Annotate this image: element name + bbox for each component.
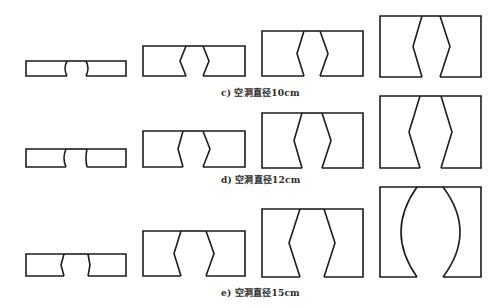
right-cavity-wall	[86, 61, 88, 76]
specimen-row-d-1	[26, 149, 126, 167]
right-cavity-wall	[86, 149, 87, 167]
left-cavity-wall	[61, 254, 64, 276]
cavity-deformation-figure	[0, 0, 500, 308]
right-block-outline	[206, 231, 245, 276]
right-block-outline	[324, 209, 363, 277]
right-block-outline	[440, 16, 481, 77]
left-block-outline	[26, 254, 64, 276]
right-block-outline	[441, 96, 481, 168]
right-cavity-wall	[88, 254, 90, 276]
right-cavity-wall	[443, 187, 460, 277]
specimen-row-e-4	[380, 187, 481, 277]
specimen-row-c-4	[380, 16, 481, 77]
right-block-outline	[88, 254, 126, 276]
specimen-row-c-3	[262, 31, 363, 76]
left-cavity-wall	[174, 231, 181, 276]
left-cavity-wall	[65, 61, 67, 76]
left-block-outline	[262, 113, 302, 168]
specimen-row-c-1	[26, 61, 126, 76]
right-block-outline	[320, 31, 363, 76]
left-cavity-wall	[401, 187, 417, 277]
left-cavity-wall	[294, 113, 302, 168]
specimen-row-e-3	[262, 209, 363, 277]
right-cavity-wall	[324, 209, 335, 277]
specimen-row-e-1	[26, 254, 126, 276]
left-block-outline	[143, 131, 183, 167]
specimen-row-c-2	[143, 46, 245, 76]
right-cavity-wall	[203, 131, 210, 167]
left-block-outline	[380, 187, 417, 277]
left-cavity-wall	[180, 46, 186, 76]
left-block-outline	[26, 61, 67, 76]
left-cavity-wall	[289, 209, 300, 277]
caption-row-e: e) 空洞直径15cm	[221, 286, 300, 299]
right-block-outline	[86, 61, 126, 76]
specimen-row-e-2	[143, 231, 245, 276]
right-cavity-wall	[440, 16, 450, 77]
right-cavity-wall	[203, 46, 209, 76]
caption-row-c: c) 空洞直径10cm	[221, 86, 300, 99]
specimen-row-d-4	[380, 96, 481, 168]
right-block-outline	[322, 113, 363, 168]
left-cavity-wall	[409, 96, 420, 168]
left-cavity-wall	[297, 31, 304, 76]
left-cavity-wall	[413, 16, 422, 77]
left-block-outline	[26, 149, 66, 167]
specimen-row-d-2	[143, 131, 245, 167]
right-block-outline	[443, 187, 481, 277]
right-cavity-wall	[441, 96, 452, 168]
left-block-outline	[262, 209, 300, 277]
left-block-outline	[380, 96, 420, 168]
right-block-outline	[87, 149, 126, 167]
right-cavity-wall	[320, 31, 328, 76]
specimen-row-d-3	[262, 113, 363, 168]
caption-row-d: d) 空洞直径12cm	[221, 173, 300, 186]
right-cavity-wall	[206, 231, 214, 276]
left-cavity-wall	[178, 131, 183, 167]
left-cavity-wall	[64, 149, 66, 167]
right-cavity-wall	[322, 113, 331, 168]
left-block-outline	[380, 16, 422, 77]
left-block-outline	[143, 231, 181, 276]
